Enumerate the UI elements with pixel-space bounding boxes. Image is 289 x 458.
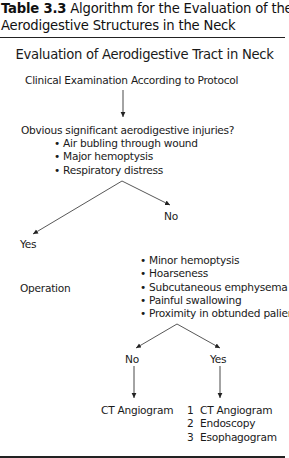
- question-1-criteria: Air bubling through wound Major hemoptys…: [54, 137, 198, 177]
- criterion: Painful swallowing: [140, 294, 289, 307]
- branch-yes-label: Yes: [20, 238, 36, 252]
- ct-angiogram-outcome: CT Angiogram: [101, 404, 173, 418]
- criterion: Proximity in obtunded palient: [140, 307, 289, 320]
- criterion: Major hemoptysis: [54, 150, 198, 163]
- branch-2-yes-label: Yes: [210, 353, 226, 367]
- arrow-to-yes: [33, 181, 122, 234]
- criterion: Hoarseness: [140, 267, 289, 280]
- criterion: Subcutaneous emphysema: [140, 281, 289, 294]
- operation-outcome: Operation: [20, 282, 70, 296]
- arrow-to-no-2: [136, 324, 177, 348]
- workup-item: 3Esophagogram: [187, 431, 277, 444]
- workup-item: 2Endoscopy: [187, 417, 277, 430]
- question-1: Obvious significant aerodigestive injuri…: [21, 124, 234, 138]
- workup-item: 1CT Angiogram: [187, 404, 277, 417]
- branch-2-no-label: No: [125, 353, 139, 367]
- flowchart-connectors: [0, 0, 289, 458]
- bottom-rule: [0, 456, 285, 458]
- criterion: Air bubling through wound: [54, 137, 198, 150]
- branch-no-label: No: [164, 210, 178, 224]
- arrow-to-no: [122, 181, 170, 205]
- question-2-criteria: Minor hemoptysis Hoarseness Subcutaneous…: [140, 254, 289, 320]
- workup-list: 1CT Angiogram 2Endoscopy 3Esophagogram: [187, 404, 277, 444]
- arrow-to-yes-2: [177, 324, 220, 348]
- criterion: Respiratory distress: [54, 164, 198, 177]
- criterion: Minor hemoptysis: [140, 254, 289, 267]
